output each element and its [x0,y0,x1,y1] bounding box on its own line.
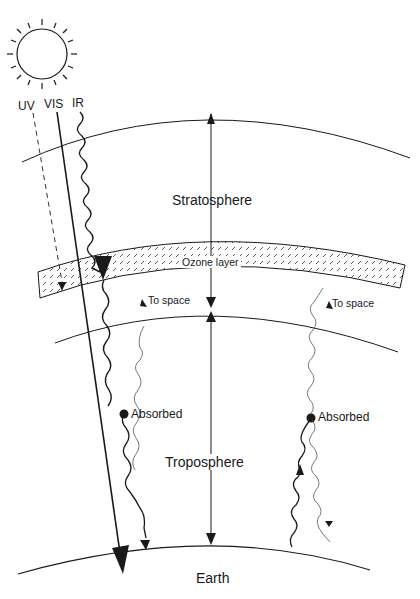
earth-ir-emission [290,420,310,547]
absorbed-point-right [307,414,316,423]
absorbed-right-label: Absorbed [318,410,369,424]
sun-icon [7,19,77,89]
earth-label: Earth [196,570,229,586]
ir-to-space-right [307,288,323,414]
to-space-right-label: To space [332,297,374,309]
stratosphere-label: Stratosphere [172,192,252,208]
absorbed-left-label: Absorbed [131,407,182,421]
uv-label: UV [18,99,35,113]
vis-ray [57,112,129,574]
to-space-left-label: To space [148,294,190,306]
ozone-layer-band [38,242,405,298]
stratosphere-height-arrow [206,113,216,308]
tropopause-boundary [55,316,398,352]
troposphere-height-arrow [206,311,216,545]
ir-label: IR [72,96,84,110]
vis-label: VIS [44,97,63,111]
troposphere-label: Troposphere [165,454,244,470]
ozone-layer-label: Ozone layer [180,256,241,268]
earth-surface [18,546,370,574]
